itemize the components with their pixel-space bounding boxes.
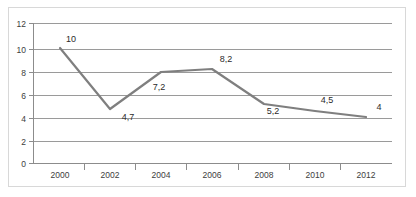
x-axis-label-2002: 2002 xyxy=(101,170,120,180)
y-axis-label-0: 0 xyxy=(21,159,26,169)
x-axis-labels: 2000 2002 2004 2006 2008 2010 2012 xyxy=(51,170,376,180)
data-label-2006: 8,2 xyxy=(220,54,233,64)
y-axis-label-10: 10 xyxy=(17,45,27,55)
x-axis-label-2008: 2008 xyxy=(255,170,274,180)
x-axis-label-2012: 2012 xyxy=(357,170,376,180)
x-axis-label-2004: 2004 xyxy=(152,170,171,180)
y-axis-label-12: 12 xyxy=(17,19,27,29)
y-axis-label-8: 8 xyxy=(21,68,26,78)
x-axis-label-2010: 2010 xyxy=(306,170,325,180)
data-label-2012: 4 xyxy=(376,102,381,112)
data-series-line xyxy=(60,48,366,117)
data-label-2004: 7,2 xyxy=(153,82,166,92)
y-axis-label-6: 6 xyxy=(21,91,26,101)
data-label-2008: 5,2 xyxy=(267,106,280,116)
x-axis-label-2006: 2006 xyxy=(203,170,222,180)
data-label-2000: 10 xyxy=(66,34,76,44)
y-axis-label-4: 4 xyxy=(21,114,26,124)
y-axis-labels: 12 10 8 6 4 2 0 xyxy=(17,19,27,169)
x-axis-label-2000: 2000 xyxy=(51,170,70,180)
y-axis-label-2: 2 xyxy=(21,137,26,147)
data-label-2002: 4,7 xyxy=(122,112,135,122)
data-label-2010: 4,5 xyxy=(321,95,334,105)
gridlines xyxy=(33,24,392,142)
line-chart: 12 10 8 6 4 2 0 2000 2002 2004 2006 2008… xyxy=(0,0,416,197)
y-axis-ticks xyxy=(29,24,33,164)
